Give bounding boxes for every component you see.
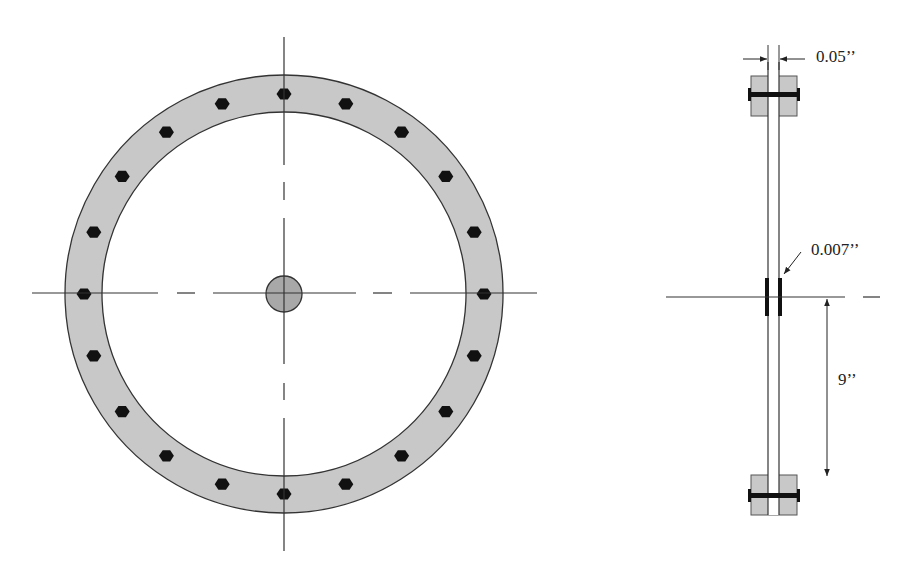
bolt-bottom <box>748 493 800 498</box>
gauge-thickness-label: 0.007’’ <box>811 240 859 260</box>
radius-label: 9’’ <box>838 370 857 390</box>
center-lines <box>32 37 537 551</box>
plate-gap-label: 0.05’’ <box>816 47 856 67</box>
bolt-top <box>748 92 800 97</box>
diagram-canvas <box>0 0 910 571</box>
front-view <box>32 37 537 551</box>
side-view <box>666 45 880 515</box>
